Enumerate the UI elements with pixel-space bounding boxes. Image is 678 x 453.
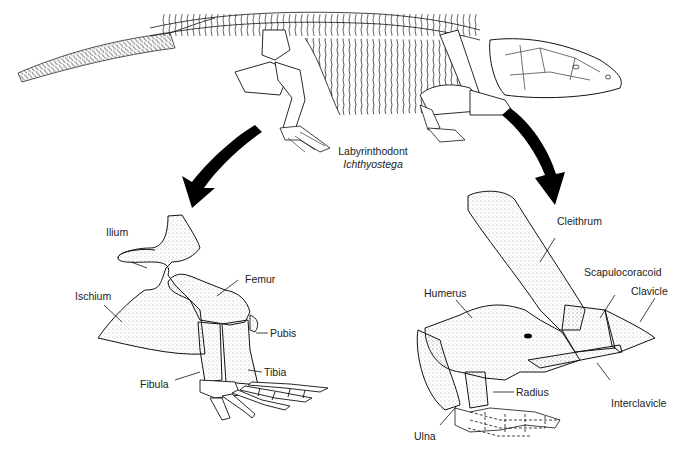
leader-ulna [440,407,456,425]
leader-clavicle [640,298,655,322]
label-tibia: Tibia [264,366,286,378]
humerus-foramen [524,334,532,339]
curved-arrow-down-left-icon [182,125,262,208]
label-clavicle: Clavicle [631,285,668,297]
leader-ilium [131,262,147,268]
fore-foot [455,408,560,436]
skull [490,39,622,98]
label-ilium: Ilium [106,226,128,238]
label-ulna: Ulna [414,430,436,442]
label-scapulocoracoid: Scapulocoracoid [584,266,662,278]
curved-arrow-down-right-icon [502,108,565,205]
label-pubis: Pubis [270,327,296,339]
figure-canvas: Labyrinthodont Ichthyostega Ilium Ischiu… [0,0,678,453]
vertebral-column [150,12,480,40]
label-fibula: Fibula [140,378,169,390]
label-cleithrum: Cleithrum [557,215,602,227]
hindlimb-detail [98,215,328,420]
hind-leg [275,62,330,152]
label-humerus: Humerus [424,287,467,299]
leader-interclavicle [597,363,610,380]
hind-foot [200,380,328,420]
leader-fibula [175,372,200,380]
caption-group: Labyrinthodont [318,145,428,158]
label-radius: Radius [516,386,549,398]
caption-species: Ichthyostega [318,158,428,171]
figure-caption: Labyrinthodont Ichthyostega [318,145,428,171]
label-ischium: Ischium [75,290,111,302]
label-interclavicle: Interclavicle [611,397,666,409]
label-femur: Femur [245,273,275,285]
